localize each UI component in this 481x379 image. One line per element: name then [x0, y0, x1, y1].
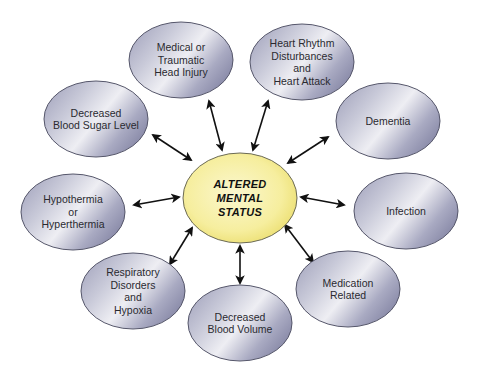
node-temperature	[21, 174, 125, 250]
node-head-injury	[129, 22, 233, 98]
node-blood-sugar	[44, 81, 148, 157]
node-dementia	[336, 83, 440, 159]
node-heart	[250, 24, 354, 100]
double-arrow-head-injury	[209, 101, 222, 150]
double-arrow-temperature	[134, 197, 179, 205]
double-arrow-heart	[253, 101, 268, 150]
node-blood-volume	[188, 285, 292, 361]
double-arrow-infection	[301, 197, 344, 205]
node-medication	[296, 251, 400, 327]
node-infection	[354, 173, 458, 249]
node-respiratory	[81, 253, 185, 329]
center-label: ALTERED MENTAL STATUS	[183, 153, 297, 243]
